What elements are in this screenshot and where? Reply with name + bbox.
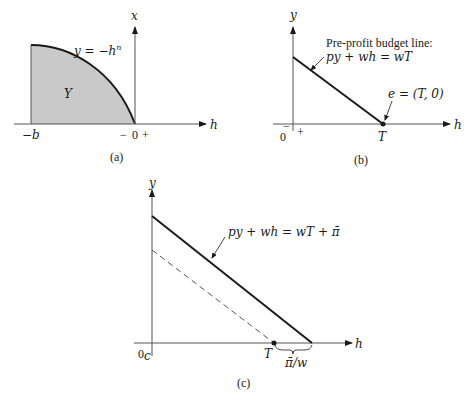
y-axis-label-c: y [148, 176, 156, 190]
origin-label-c: 0c [138, 347, 151, 363]
caption-b: (b) [354, 153, 368, 167]
origin-label-a: 0 [132, 128, 138, 142]
budget-title-b: Pre-profit budget line: [326, 36, 433, 50]
budget-pointer-arrow [311, 57, 324, 70]
origin-plus-a: + [142, 128, 149, 142]
h-axis-label-b: h [454, 118, 462, 132]
endowment-point-c [272, 341, 277, 346]
panel-c: y h py + wh = wT + π̄ 0c T π̄/w (c) [134, 176, 363, 390]
curve-label-a: y = −hn [73, 43, 121, 58]
budget-equation-b: py + wh = wT [326, 50, 413, 64]
origin-plus-b: + [297, 125, 304, 139]
t-label-b: T [378, 130, 387, 144]
t-label-c: T [264, 347, 273, 361]
h-axis-label-a: h [210, 118, 218, 132]
profit-shift-brace [275, 345, 312, 354]
y-axis-label-b: y [289, 8, 297, 22]
endowment-point [381, 122, 386, 127]
caption-a: (a) [110, 150, 123, 164]
origin-minus-b: − [283, 119, 290, 133]
budget-equation-c: py + wh = wT + π̄ [228, 225, 341, 239]
panel-b: y h Pre-profit budget line: py + wh = wT… [273, 8, 462, 167]
profit-shift-label: π̄/w [284, 356, 308, 370]
caption-c: (c) [237, 376, 250, 390]
left-bound-label: −b [22, 128, 40, 142]
panel-a: x h y = −hn Y −b − 0 + (a) [14, 9, 218, 164]
pre-profit-budget-line [293, 57, 383, 124]
origin-minus-a: − [120, 128, 127, 142]
h-axis-label-c: h [355, 337, 363, 351]
region-label-y: Y [64, 87, 73, 101]
endowment-label: e = (T, 0) [388, 87, 444, 101]
figure-canvas: x h y = −hn Y −b − 0 + (a) y h Pre-profi… [0, 0, 464, 395]
budget-pointer-arrow-c [212, 237, 225, 258]
endowment-pointer-arrow [385, 101, 392, 120]
x-axis-label-a: x [131, 9, 138, 23]
